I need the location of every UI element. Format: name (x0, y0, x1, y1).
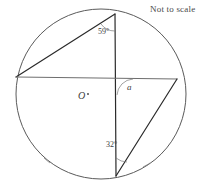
center-label: O (78, 90, 85, 101)
angle-label-bottom: 32° (106, 140, 117, 149)
not-to-scale-note: Not to scale (150, 4, 195, 14)
center-point-dot-icon (87, 93, 89, 95)
chord-left-right (16, 77, 177, 79)
chord-bottom-right (116, 79, 177, 176)
chord-top-bottom (115, 14, 116, 176)
arc-tick-right-icon (143, 163, 150, 167)
arc-tick-left-icon (44, 158, 50, 163)
geometry-diagram: O 59° a 32° Not to scale (0, 0, 210, 183)
circle-figure-svg: O 59° a 32° (0, 0, 210, 183)
angle-label-top: 59° (98, 27, 109, 36)
angle-label-center: a (127, 82, 132, 92)
